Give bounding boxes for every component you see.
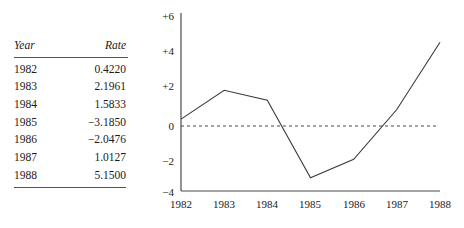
table-header-row: Year Rate: [14, 40, 128, 57]
rate-table-panel: Year Rate 1982 0.4220 1983 2.1961 1984 1…: [14, 40, 128, 187]
cell-year: 1983: [14, 78, 56, 96]
table-row: 1984 1.5833: [14, 96, 128, 114]
cell-year: 1985: [14, 113, 56, 131]
y-tick-label: −2: [162, 155, 174, 167]
table-bottom-rule: [14, 187, 126, 188]
cell-rate: 1.0127: [56, 149, 128, 167]
column-header-year: Year: [14, 40, 56, 57]
table-row: 1982 0.4220: [14, 57, 128, 78]
cell-year: 1986: [14, 131, 56, 149]
cell-rate: −3.1850: [56, 113, 128, 131]
y-tick-label: −4: [162, 186, 174, 198]
x-tick-label: 1987: [386, 198, 409, 210]
cell-year: 1984: [14, 96, 56, 114]
y-tick-label: 0: [169, 120, 175, 132]
y-tick-label: +4: [162, 45, 174, 57]
cell-year: 1982: [14, 57, 56, 78]
x-tick-label: 1988: [429, 198, 452, 210]
table-body: 1982 0.4220 1983 2.1961 1984 1.5833 1985…: [14, 57, 128, 187]
rate-line-chart-panel: +6 +4 +2 0 −2 −4 1982 1983 1984 1985 198…: [150, 0, 464, 228]
cell-rate: 1.5833: [56, 96, 128, 114]
column-header-rate: Rate: [56, 40, 128, 57]
cell-rate: 0.4220: [56, 57, 128, 78]
x-tick-label: 1984: [256, 198, 279, 210]
figure-container: Year Rate 1982 0.4220 1983 2.1961 1984 1…: [0, 0, 464, 228]
y-tick-label: +2: [162, 80, 174, 92]
y-tick-label: +6: [162, 10, 174, 22]
table-row: 1986 −2.0476: [14, 131, 128, 149]
table-row: 1985 −3.1850: [14, 113, 128, 131]
cell-rate: −2.0476: [56, 131, 128, 149]
x-tick-label: 1982: [170, 198, 192, 210]
x-tick-label: 1983: [213, 198, 236, 210]
x-tick-label: 1986: [343, 198, 366, 210]
rate-series-line: [181, 42, 440, 178]
table-header: Year Rate: [14, 40, 128, 57]
table-row: 1988 5.1500: [14, 167, 128, 188]
table-row: 1983 2.1961: [14, 78, 128, 96]
x-tick-label: 1985: [299, 198, 322, 210]
rate-line-chart: +6 +4 +2 0 −2 −4 1982 1983 1984 1985 198…: [150, 0, 464, 228]
cell-rate: 2.1961: [56, 78, 128, 96]
cell-year: 1988: [14, 167, 56, 188]
rate-table: Year Rate 1982 0.4220 1983 2.1961 1984 1…: [14, 40, 128, 187]
cell-rate: 5.1500: [56, 167, 128, 188]
table-row: 1987 1.0127: [14, 149, 128, 167]
cell-year: 1987: [14, 149, 56, 167]
